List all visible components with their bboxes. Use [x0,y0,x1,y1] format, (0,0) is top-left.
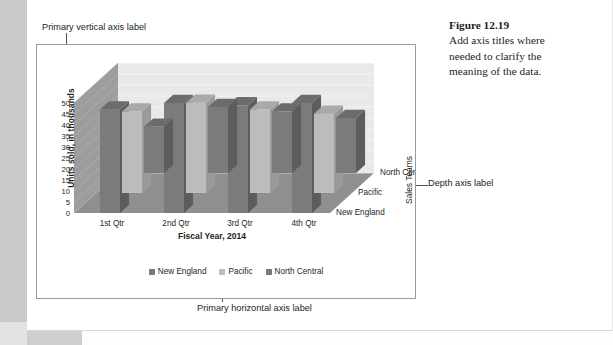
svg-text:Pacific: Pacific [358,188,382,197]
legend-label-pacific: Pacific [228,267,252,276]
legend-item-pacific[interactable]: Pacific [219,267,252,276]
legend-swatch-pacific [219,269,225,275]
legend-label-new-england: New England [158,267,207,276]
annotation-primary-horizontal-axis-label: Primary horizontal axis label [197,303,312,313]
chart-frame[interactable]: Units sold, in thousands Sales Teams Fis… [36,44,416,299]
annotation-depth-axis-label: Depth axis label [428,178,493,188]
figure-caption: Figure 12.19 Add axis titles where neede… [449,18,564,79]
legend-swatch-new-england [149,269,155,275]
svg-text:2nd Qtr: 2nd Qtr [162,219,190,228]
x-axis-ticks: 1st Qtr2nd Qtr3rd Qtr4th Qtr [100,219,317,228]
svg-text:3rd Qtr: 3rd Qtr [227,219,253,228]
book-edge-band [0,0,27,322]
legend-label-north-central: North Central [275,267,324,276]
x-axis-title: Fiscal Year, 2014 [97,231,327,241]
book-edge-band-lower [0,322,27,345]
page-canvas: Figure 12.19 Add axis titles where neede… [0,0,613,345]
chart-plot-area[interactable]: 05101520253035404550 1st Qtr2nd Qtr3rd Q… [37,45,415,255]
figure-caption-text: Add axis titles where needed to clarify … [449,33,564,79]
depth-axis-title: Sales Teams [404,135,414,225]
legend-swatch-north-central [266,269,272,275]
figure-number: Figure 12.19 [449,18,564,33]
legend-item-north-central[interactable]: North Central [266,267,324,276]
svg-text:1st Qtr: 1st Qtr [100,219,125,228]
svg-text:0: 0 [66,209,70,218]
annotation-primary-vertical-axis-label: Primary vertical axis label [42,22,146,32]
svg-text:New England: New England [336,208,385,217]
legend-item-new-england[interactable]: New England [149,267,207,276]
chart-legend[interactable]: New England Pacific North Central [121,267,351,276]
svg-text:4th Qtr: 4th Qtr [291,219,316,228]
svg-text:5: 5 [66,198,70,207]
book-edge-band-tail [27,331,82,345]
y-axis-title: Units sold, in thousands [66,78,76,198]
